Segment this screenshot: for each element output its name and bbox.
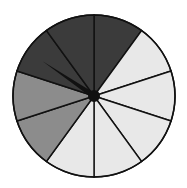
spinner <box>0 0 187 188</box>
spinner-hub <box>88 90 100 102</box>
